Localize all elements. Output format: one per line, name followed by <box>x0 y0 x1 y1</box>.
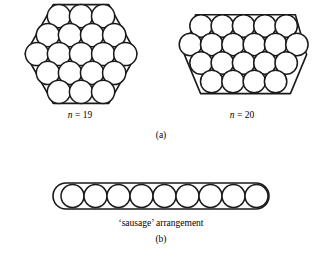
packed-circle <box>92 80 115 103</box>
label-n-19: n = 19 <box>0 110 160 120</box>
packed-circle <box>243 70 265 92</box>
packed-circle <box>153 185 176 208</box>
label-n-20-equals: = <box>235 110 245 120</box>
hexagon-packing-19 <box>8 2 154 108</box>
label-sausage-arrangement: ‘sausage’ arrangement <box>0 218 322 228</box>
label-n-20-value: 20 <box>245 110 255 120</box>
label-n-19-equals: = <box>73 110 83 120</box>
packed-circle <box>69 80 92 103</box>
label-n-20: n = 20 <box>162 110 322 120</box>
packed-circle <box>84 185 107 208</box>
packed-circle <box>201 70 223 92</box>
packed-circle <box>47 80 70 103</box>
packed-circle <box>107 185 130 208</box>
circle-group-sausage <box>61 185 268 208</box>
circle-group-19 <box>25 5 137 104</box>
packed-circle <box>176 185 199 208</box>
packed-circle <box>130 185 153 208</box>
panel-caption-a: (a) <box>0 130 322 140</box>
packed-circle <box>245 185 268 208</box>
label-n-19-value: 19 <box>83 110 93 120</box>
packed-circle <box>222 185 245 208</box>
circle-group-20 <box>179 15 308 93</box>
packed-circle <box>264 70 286 92</box>
packed-circle <box>199 185 222 208</box>
packed-circle <box>61 185 84 208</box>
sausage-packing <box>50 180 272 212</box>
packing-figure: n = 19 n = 20 (a) ‘sausage’ arrangement … <box>0 0 322 261</box>
hexagon-packing-20 <box>172 2 318 108</box>
packed-circle <box>222 70 244 92</box>
panel-caption-b: (b) <box>0 234 322 244</box>
